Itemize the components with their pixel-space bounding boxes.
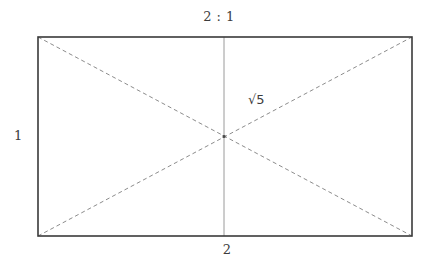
height-side-label: 1	[14, 129, 22, 142]
aspect-ratio-label: 2 : 1	[0, 10, 438, 23]
diagonal-length-label: √5	[248, 93, 265, 106]
width-side-label: 2	[0, 243, 438, 256]
center-intersection-dot	[223, 135, 226, 138]
geometry-diagram	[0, 0, 438, 266]
